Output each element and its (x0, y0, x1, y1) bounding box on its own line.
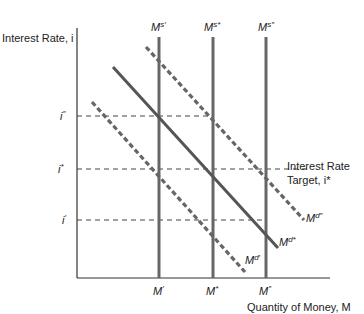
tick-i-star: i* (58, 162, 64, 175)
tick-m-star: M* (206, 284, 219, 297)
tick-m-double-prime: M″ (259, 284, 272, 297)
label-ms-star: Ms* (204, 20, 221, 33)
tick-i-double-prime: i″ (60, 109, 66, 122)
label-ms-double-prime: Ms″ (258, 20, 275, 33)
x-axis-label: Quantity of Money, M (247, 301, 351, 313)
y-axis-label: Interest Rate, i (2, 32, 74, 44)
annotation-target-line2: Target, i* (287, 174, 331, 186)
money-market-diagram: Ms′ Ms* Ms″ Interest Rate, i i″ i* i′ M′… (0, 0, 364, 314)
annotation-target-line1: Interest Rate (287, 160, 350, 172)
tick-m-prime: M′ (153, 284, 164, 297)
label-md-prime: Md′ (245, 253, 261, 266)
label-md-double-prime: Md″ (306, 211, 324, 224)
label-md-star: Md* (279, 235, 297, 248)
tick-i-prime: i′ (62, 213, 66, 226)
label-ms-prime: Ms′ (151, 20, 166, 33)
demand-curve-md-double-prime (146, 47, 304, 220)
demand-curve-md-star (113, 67, 278, 248)
